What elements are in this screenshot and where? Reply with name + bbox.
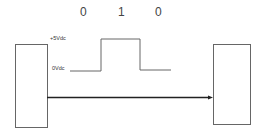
receiver-box: [214, 45, 251, 125]
square-wave: [70, 39, 171, 71]
high-voltage-label: +5Vdc: [50, 35, 66, 41]
bit-label-2: 0: [155, 5, 162, 19]
bit-label-1: 1: [118, 5, 125, 19]
bit-label-0: 0: [80, 5, 87, 19]
low-voltage-label: 0Vdc: [52, 65, 65, 71]
signal-diagram: 0 1 0 +5Vdc 0Vdc: [0, 0, 262, 133]
sender-box: [16, 45, 48, 128]
arrow-head-icon: [208, 96, 213, 100]
